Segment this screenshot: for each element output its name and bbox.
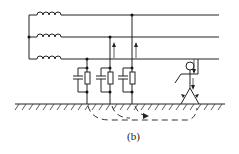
circuit-diagram bbox=[0, 0, 239, 154]
current-arrow-icon bbox=[112, 42, 138, 58]
phase-1-wire bbox=[29, 12, 219, 15]
person-icon bbox=[175, 59, 199, 104]
phase-3-wire bbox=[29, 56, 219, 59]
figure-caption: (b) bbox=[127, 130, 140, 142]
rc-unit bbox=[73, 67, 90, 105]
rc-unit bbox=[118, 67, 135, 105]
rc-unit bbox=[96, 67, 113, 105]
ground-icon bbox=[15, 104, 225, 110]
phase-2-wire bbox=[29, 34, 219, 37]
